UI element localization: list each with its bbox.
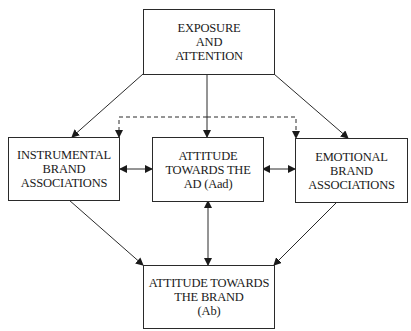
edge-exposure-emotional <box>274 74 348 138</box>
edge-exposure-instrumental <box>72 74 143 137</box>
edge-emotional-ab <box>274 202 337 265</box>
node-label-line: EMOTIONAL <box>315 150 388 164</box>
node-instrumental-brand-associations: INSTRUMENTAL BRAND ASSOCIATIONS <box>8 137 120 201</box>
node-label-line: TOWARDS THE <box>165 163 250 177</box>
node-label-line: ASSOCIATIONS <box>21 176 108 190</box>
node-label-line: EXPOSURE <box>178 21 241 35</box>
node-label-line: (Ab) <box>198 304 221 318</box>
node-label-line: BRAND <box>330 164 373 178</box>
node-exposure-attention: EXPOSURE AND ATTENTION <box>143 9 275 75</box>
node-label-line: ATTITUDE <box>179 149 238 163</box>
node-label-line: AD (Aad) <box>184 177 233 191</box>
dashed-edge-instrumental <box>119 117 207 137</box>
node-attitude-towards-ad: ATTITUDE TOWARDS THE AD (Aad) <box>152 137 264 202</box>
node-label-line: AND <box>196 35 222 49</box>
edge-instrumental-ab <box>69 200 143 265</box>
node-emotional-brand-associations: EMOTIONAL BRAND ASSOCIATIONS <box>295 138 408 203</box>
node-attitude-towards-brand: ATTITUDE TOWARDS THE BRAND (Ab) <box>143 265 275 329</box>
node-label-line: ATTENTION <box>175 49 243 63</box>
node-label-line: THE BRAND <box>174 290 243 304</box>
node-label-line: INSTRUMENTAL <box>17 148 111 162</box>
node-label-line: ATTITUDE TOWARDS <box>149 276 269 290</box>
node-label-line: BRAND <box>43 162 86 176</box>
node-label-line: ASSOCIATIONS <box>308 178 395 192</box>
dashed-edge-emotional <box>207 117 296 138</box>
advertising-effects-diagram: EXPOSURE AND ATTENTION INSTRUMENTAL BRAN… <box>0 0 411 331</box>
